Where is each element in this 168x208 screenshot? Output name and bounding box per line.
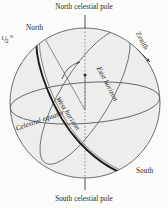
- sphere-centre-point: [84, 74, 87, 77]
- label-south-celestial-pole: South celestial pole: [55, 196, 113, 203]
- fraction-numerator: 1: [1, 34, 4, 41]
- fraction-one-half: 1/2: [1, 35, 10, 44]
- fraction-denominator: 2: [5, 37, 8, 44]
- label-half-degree-angle: 1/2°: [1, 34, 13, 44]
- label-north-celestial-pole: North celestial pole: [55, 4, 113, 11]
- celestial-sphere-figure: North celestial pole South celestial pol…: [0, 0, 168, 208]
- label-south-point: South: [136, 168, 153, 175]
- degree-symbol: °: [10, 33, 14, 43]
- label-north-point: North: [26, 25, 43, 32]
